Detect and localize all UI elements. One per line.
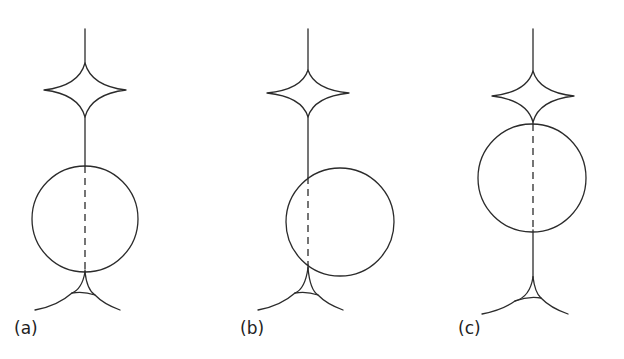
panel-a	[32, 29, 138, 310]
panel-label-b: (b)	[240, 318, 264, 338]
lower-caustic-chord	[515, 297, 541, 301]
lower-caustic-right-branch	[85, 272, 120, 310]
panel-b	[258, 29, 394, 310]
lower-caustic-left-branch	[258, 268, 308, 310]
caustic-diagram	[0, 0, 624, 359]
lens-circle	[478, 124, 586, 232]
panel-c	[478, 29, 586, 314]
panel-label-a: (a)	[14, 318, 38, 338]
astroid-caustic	[267, 70, 349, 117]
lower-caustic-right-branch	[533, 277, 568, 314]
lower-caustic-left-branch	[482, 277, 533, 314]
lower-caustic-left-branch	[35, 272, 85, 310]
astroid-caustic	[44, 63, 126, 117]
lens-circle	[286, 168, 394, 276]
panel-label-c: (c)	[458, 318, 481, 338]
astroid-caustic	[492, 71, 574, 122]
